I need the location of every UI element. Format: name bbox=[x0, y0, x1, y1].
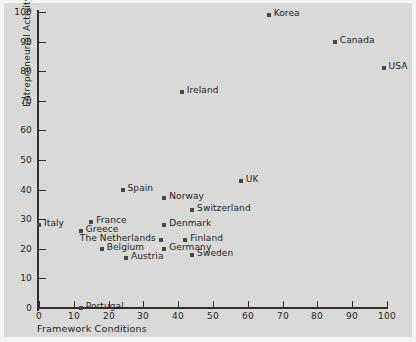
y-tick-label-30: 30 bbox=[6, 214, 32, 224]
y-tick-label-10: 10 bbox=[6, 273, 32, 283]
point-marker bbox=[159, 238, 163, 242]
y-tick-60 bbox=[39, 130, 46, 131]
point-marker bbox=[121, 188, 125, 192]
point-label: Switzerland bbox=[197, 203, 251, 213]
figure-panel: 0102030405060708090100 01020304050607080… bbox=[4, 3, 412, 337]
x-tick-label-100: 100 bbox=[374, 311, 400, 321]
point-marker bbox=[382, 66, 386, 70]
point-label: Denmark bbox=[169, 218, 211, 228]
x-axis-title: Framework Conditions bbox=[37, 323, 147, 334]
point-marker bbox=[333, 40, 337, 44]
x-tick-label-0: 0 bbox=[26, 311, 52, 321]
point-label: Italy bbox=[44, 218, 64, 228]
point-marker bbox=[162, 223, 166, 227]
point-marker bbox=[37, 223, 41, 227]
point-marker bbox=[162, 196, 166, 200]
x-tick-label-80: 80 bbox=[304, 311, 330, 321]
x-tick-label-50: 50 bbox=[200, 311, 226, 321]
point-marker bbox=[180, 90, 184, 94]
x-tick-label-70: 70 bbox=[270, 311, 296, 321]
y-tick-50 bbox=[39, 160, 46, 161]
y-tick-0 bbox=[39, 308, 46, 309]
y-tick-label-40: 40 bbox=[6, 185, 32, 195]
x-tick-30 bbox=[143, 301, 144, 308]
point-label: Austria bbox=[131, 251, 164, 261]
x-tick-90 bbox=[352, 301, 353, 308]
x-tick-50 bbox=[213, 301, 214, 308]
y-tick-label-60: 60 bbox=[6, 125, 32, 135]
point-label: USA bbox=[389, 61, 408, 71]
point-label: Portugal bbox=[86, 301, 124, 311]
point-label: Korea bbox=[274, 8, 300, 18]
x-tick-label-90: 90 bbox=[339, 311, 365, 321]
point-label: UK bbox=[246, 174, 259, 184]
point-marker bbox=[267, 13, 271, 17]
x-tick-80 bbox=[317, 301, 318, 308]
x-tick-label-30: 30 bbox=[130, 311, 156, 321]
point-label: Spain bbox=[128, 183, 154, 193]
y-tick-label-50: 50 bbox=[6, 155, 32, 165]
x-tick-60 bbox=[248, 301, 249, 308]
x-tick-0 bbox=[39, 301, 40, 308]
x-tick-70 bbox=[283, 301, 284, 308]
point-marker bbox=[79, 306, 83, 310]
x-tick-label-10: 10 bbox=[61, 311, 87, 321]
y-tick-90 bbox=[39, 42, 46, 43]
point-marker bbox=[190, 253, 194, 257]
point-marker bbox=[100, 247, 104, 251]
point-label: Norway bbox=[169, 191, 204, 201]
y-tick-100 bbox=[39, 12, 46, 13]
point-label: Sweden bbox=[197, 248, 233, 258]
scatter-plot: 0102030405060708090100 01020304050607080… bbox=[4, 3, 412, 337]
y-tick-40 bbox=[39, 190, 46, 191]
point-label: Canada bbox=[340, 35, 375, 45]
y-tick-20 bbox=[39, 249, 46, 250]
x-tick-100 bbox=[387, 301, 388, 308]
point-label: Ireland bbox=[187, 85, 219, 95]
y-tick-10 bbox=[39, 278, 46, 279]
x-tick-40 bbox=[178, 301, 179, 308]
point-marker bbox=[124, 256, 128, 260]
y-axis-title: Entrepreneurial Activity bbox=[22, 0, 32, 107]
x-tick-label-20: 20 bbox=[96, 311, 122, 321]
y-tick-label-20: 20 bbox=[6, 244, 32, 254]
point-marker bbox=[239, 179, 243, 183]
y-tick-80 bbox=[39, 71, 46, 72]
x-tick-label-40: 40 bbox=[165, 311, 191, 321]
x-tick-label-60: 60 bbox=[235, 311, 261, 321]
point-marker bbox=[190, 208, 194, 212]
y-tick-70 bbox=[39, 101, 46, 102]
x-tick-10 bbox=[74, 301, 75, 308]
